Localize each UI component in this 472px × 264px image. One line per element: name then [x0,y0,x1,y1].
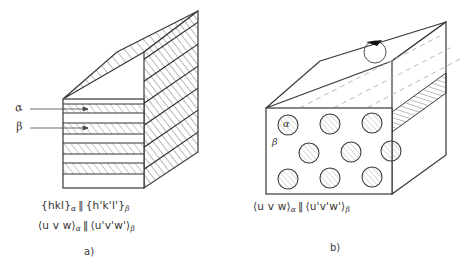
caption-a-plane-left: {hkl} [41,199,71,211]
panel-label-b: b) [330,242,340,253]
label-alpha-panel-b: α [283,118,290,129]
caption-b-direction-relation: ⟨u v w⟩α‖⟨u'v'w'⟩β [253,200,350,214]
panel-b-block [266,22,462,194]
caption-a-dir-right: ⟨u'v'w'⟩ [90,219,130,231]
caption-a-dir-left: ⟨u v w⟩ [38,219,76,231]
label-beta-panel-a: β [15,120,24,134]
caption-a-plane-right-sub: β [125,204,130,213]
caption-a-direction-relation: ⟨u v w⟩α‖⟨u'v'w'⟩β [38,219,135,233]
caption-b-dir-left: ⟨u v w⟩ [253,200,291,212]
panel-a-block [30,0,204,195]
caption-b-dir-right-sub: β [345,205,350,214]
panel-label-a: a) [84,246,94,257]
caption-b-dir-right: ⟨u'v'w'⟩ [305,200,345,212]
caption-a-plane-right: {h'k'l'} [86,199,125,211]
caption-a-plane-relation: {hkl}α‖{h'k'l'}β [41,199,130,213]
label-beta-panel-b: β [272,136,278,147]
caption-a-dir-right-sub: β [130,224,135,233]
parallel-symbol: ‖ [76,199,85,211]
